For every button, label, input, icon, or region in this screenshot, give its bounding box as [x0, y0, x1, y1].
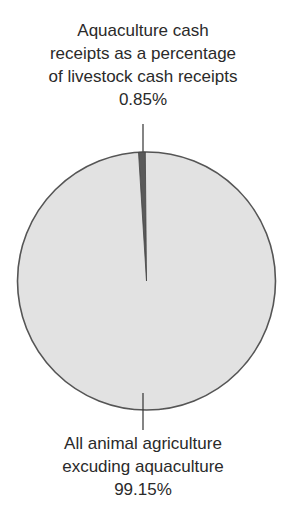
animal-agriculture-slice-label: All animal agriculture excuding aquacult…	[0, 432, 286, 501]
animal-ag-value-label: 99.15%	[0, 478, 286, 501]
animal-ag-label-line-2: excuding aquaculture	[0, 455, 286, 478]
animal-ag-label-line-1: All animal agriculture	[0, 432, 286, 455]
